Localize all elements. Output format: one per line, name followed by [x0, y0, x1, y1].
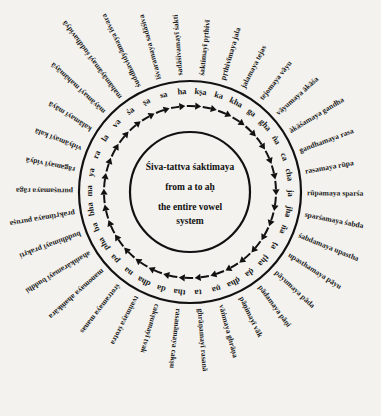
arrow-segment [171, 107, 179, 108]
tattva-label: rāgamayī vidyā [25, 156, 76, 175]
ring-letter: ṭa [269, 241, 282, 253]
arrow-segment [106, 210, 108, 218]
arrow-segment [266, 151, 270, 159]
center-line-1: Śiva-tattva śaktimaya [146, 161, 235, 172]
tattva-label: pādamaya pāṇi [256, 283, 293, 329]
arrow-ring [100, 102, 279, 281]
tattva-label: prakṛtimaya puruṣa [9, 208, 76, 228]
arrow-segment [265, 227, 269, 234]
ring-letter: ya [85, 166, 97, 177]
ring-letter: ḍa [243, 267, 257, 281]
arrowhead-icon [270, 173, 278, 180]
arrowhead-icon [266, 219, 275, 227]
arrow-segment [275, 181, 276, 189]
tattva-label: vāṅmaya ghrāṇa [217, 304, 240, 359]
ring-letter: ṣa [140, 95, 152, 108]
arrow-segment [106, 163, 108, 171]
arrow-segment [218, 111, 226, 114]
arrowhead-icon [162, 270, 170, 278]
ring-letter: kha [228, 95, 245, 110]
arrowhead-icon [179, 102, 186, 110]
arrow-segment [169, 275, 177, 277]
arrowhead-icon [258, 233, 267, 242]
ring-letter: bha [84, 201, 96, 217]
tattva-label: cakṣumayī tvak [138, 303, 161, 355]
tattva-label: rūpamaya sparśa [307, 188, 364, 198]
ring-letter: ca [279, 151, 291, 163]
tattva-label: pāṇimayī vāk [237, 295, 265, 339]
ring-letter: pha [95, 235, 111, 253]
ring-letter: va [110, 116, 124, 130]
center-caption: Śiva-tattva śaktimaya from a to aḥ the e… [146, 161, 235, 226]
arrowhead-icon [147, 264, 155, 273]
ring-letter: ga [245, 106, 258, 120]
ring-letter: tha [172, 287, 186, 298]
tattva-label: rasanāmaya cakṣu [168, 308, 183, 370]
arrow-segment [231, 263, 238, 267]
ring-letter: ra [90, 148, 103, 160]
arrow-segment [142, 116, 149, 120]
arrowhead-icon [101, 204, 109, 211]
tattva-label: kalāmayī māyā [46, 99, 93, 133]
ring-letter: ha [177, 86, 187, 97]
ring-letter: ṅa [270, 133, 284, 146]
ring-letter: ña [277, 224, 290, 237]
arrowhead-icon [224, 265, 233, 274]
ring-letter: na [121, 265, 135, 279]
arrowhead-icon [194, 274, 201, 282]
arrow-segment [140, 262, 147, 267]
ring-letter: da [155, 283, 167, 295]
arrowhead-icon [101, 172, 109, 179]
ring-letter: ta [193, 287, 202, 298]
tattva-label: tejomaya vāyu [258, 58, 295, 102]
arrow-segment [104, 179, 105, 187]
arrowhead-icon [195, 103, 201, 111]
arrowhead-icon [105, 157, 114, 165]
center-line-4: system [176, 216, 204, 226]
tattva-label: vidyāmayī kalā [33, 126, 83, 153]
arrow-segment [244, 253, 250, 259]
arrow-segment [272, 165, 274, 173]
tattva-label: sparśamaya śabda [304, 210, 365, 231]
ring-letter: śa [124, 104, 137, 117]
arrowhead-icon [210, 105, 218, 113]
outer-ring [79, 81, 301, 303]
tattva-label: īśvaramaya sadāśiva [137, 13, 164, 81]
arrowhead-icon [112, 142, 121, 151]
center-line-3: the entire vowel [158, 202, 223, 212]
arrowhead-icon [272, 189, 279, 195]
ring-letter: kṣa [194, 86, 208, 97]
tattva-labels: śaktimayī pṛthivīpṛthivīmaya jalajalamay… [9, 12, 365, 372]
arrow-segment [154, 270, 162, 273]
ring-letter: ma [84, 184, 94, 196]
tattva-label: śaktimayī pṛthivī [197, 19, 212, 76]
tattva-label: puruṣamaya rāga [16, 186, 73, 196]
tattva-label: śabdamaya upastha [297, 231, 360, 263]
ring-letter: dha [135, 274, 152, 289]
arrow-segment [112, 149, 116, 156]
arrowhead-icon [179, 274, 185, 282]
diagram-canvas: kṣakakhagaghaṅacachajajhañaṭaṭhaḍaḍhaṇat… [0, 0, 381, 416]
arrow-segment [201, 276, 209, 277]
ring-letter: ṭha [256, 253, 272, 269]
ring-letter: la [99, 132, 111, 144]
arrow-segment [111, 226, 115, 234]
ring-letter: sa [159, 88, 170, 100]
tattva-label: sadāśivamayī śakti [171, 14, 185, 76]
arrow-segment [120, 136, 125, 143]
arrowhead-icon [209, 271, 217, 280]
tattva-label: ghrāṇamayī rasanā [196, 308, 210, 372]
arrow-segment [104, 195, 105, 203]
center-line-2: from a to aḥ [165, 182, 215, 192]
tattva-label: jalamaya tejas [238, 44, 268, 91]
tattva-label: tvaṅmaya śrotra [109, 294, 142, 346]
ring-letter: ḍha [225, 276, 242, 291]
ring-letter: pa [107, 252, 121, 266]
arrow-segment [128, 252, 134, 258]
ring-letter: ka [213, 89, 225, 101]
arrowhead-icon [224, 111, 232, 120]
arrowhead-icon [105, 219, 114, 227]
ring-letter: ba [89, 221, 102, 234]
arrow-segment [118, 240, 123, 247]
tattva-label: buddhimayī prakṛti [18, 229, 82, 260]
